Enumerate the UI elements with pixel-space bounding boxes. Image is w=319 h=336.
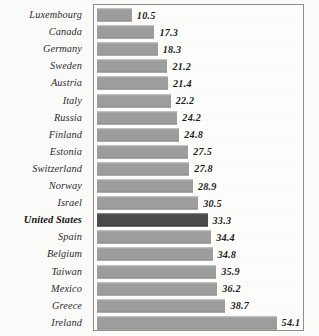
bar (97, 162, 189, 175)
category-label: Austria (0, 77, 82, 88)
bar-value-label: 24.8 (184, 129, 203, 140)
bar-value-label: 18.3 (163, 44, 182, 55)
category-label: Switzerland (0, 162, 82, 173)
bar-chart: LuxembourgCanadaGermanySwedenAustriaItal… (0, 0, 319, 336)
plot-area: 10.517.318.321.221.422.224.224.827.527.8… (93, 4, 304, 331)
category-label: Spain (0, 231, 82, 242)
category-label: Taiwan (0, 265, 82, 276)
bar-value-label: 33.3 (213, 215, 232, 226)
bar (97, 265, 216, 278)
bar-value-label: 17.3 (159, 27, 178, 38)
category-label: Mexico (0, 282, 82, 293)
bar-row: 38.7 (94, 299, 303, 312)
bar-value-label: 38.7 (230, 300, 249, 311)
bar (97, 248, 213, 261)
category-label: United States (0, 214, 82, 225)
bar-value-label: 28.9 (198, 181, 217, 192)
bar-value-label: 24.2 (182, 112, 201, 123)
bar (97, 111, 177, 124)
category-label: Finland (0, 128, 82, 139)
bar-value-label: 34.8 (218, 249, 237, 260)
bar (97, 180, 193, 193)
category-label: Norway (0, 180, 82, 191)
category-axis-labels: LuxembourgCanadaGermanySwedenAustriaItal… (0, 0, 88, 336)
bar-row: 10.5 (94, 9, 303, 22)
bar-row: 27.5 (94, 145, 303, 158)
bar-row: 21.4 (94, 77, 303, 90)
category-label: Canada (0, 26, 82, 37)
bar-highlight (97, 214, 208, 227)
bar (97, 26, 154, 39)
bar (97, 299, 225, 312)
bar-row: 27.8 (94, 162, 303, 175)
category-label: Belgium (0, 248, 82, 259)
bar-value-label: 54.1 (282, 317, 301, 328)
bar-row: 18.3 (94, 43, 303, 56)
bar-value-label: 27.8 (194, 163, 213, 174)
category-label: Israel (0, 197, 82, 208)
bar-row: 30.5 (94, 197, 303, 210)
bar-value-label: 36.2 (222, 283, 241, 294)
bar-row: 24.2 (94, 111, 303, 124)
bar (97, 94, 171, 107)
bar (97, 197, 198, 210)
bar-row: 34.4 (94, 231, 303, 244)
bar (97, 231, 211, 244)
category-label: Luxembourg (0, 9, 82, 20)
bar-value-label: 10.5 (137, 10, 156, 21)
bar-value-label: 27.5 (193, 146, 212, 157)
category-label: Germany (0, 43, 82, 54)
bar (97, 43, 158, 56)
category-label: Ireland (0, 316, 82, 327)
bar-row: 36.2 (94, 282, 303, 295)
bar-value-label: 21.2 (172, 61, 191, 72)
bar-row: 33.3 (94, 214, 303, 227)
bar (97, 282, 217, 295)
bar-value-label: 34.4 (216, 232, 235, 243)
bar-value-label: 30.5 (203, 198, 222, 209)
bar (97, 9, 132, 22)
bar-value-label: 21.4 (173, 78, 192, 89)
category-label: Russia (0, 111, 82, 122)
bar-value-label: 22.2 (176, 95, 195, 106)
category-label: Estonia (0, 145, 82, 156)
category-label: Italy (0, 94, 82, 105)
bar (97, 316, 277, 329)
bar-row: 35.9 (94, 265, 303, 278)
bar-value-label: 35.9 (221, 266, 240, 277)
bar (97, 60, 167, 73)
bar (97, 145, 188, 158)
category-label: Sweden (0, 60, 82, 71)
bar-row: 21.2 (94, 60, 303, 73)
bar-row: 22.2 (94, 94, 303, 107)
bar-row: 54.1 (94, 316, 303, 329)
bar-row: 34.8 (94, 248, 303, 261)
bar-row: 24.8 (94, 128, 303, 141)
category-label: Greece (0, 299, 82, 310)
bar (97, 77, 168, 90)
bar (97, 128, 179, 141)
bar-row: 28.9 (94, 180, 303, 193)
bar-row: 17.3 (94, 26, 303, 39)
